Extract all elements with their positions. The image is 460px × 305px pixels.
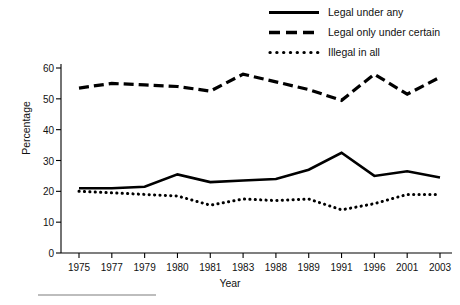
x-axis-tick-label: 1975 xyxy=(68,262,90,273)
y-axis-tick-label: 60 xyxy=(20,63,54,74)
x-axis-tick-label: 1991 xyxy=(330,262,352,273)
footer-divider xyxy=(38,294,156,296)
x-axis-tick-label: 1988 xyxy=(265,262,287,273)
x-axis-tick-label: 2003 xyxy=(429,262,451,273)
y-axis-tick-label: 40 xyxy=(20,124,54,135)
x-axis-tick-label: 1983 xyxy=(232,262,254,273)
y-axis-tick-label: 0 xyxy=(20,248,54,259)
y-axis-tick-label: 30 xyxy=(20,155,54,166)
x-axis-tick-label: 2001 xyxy=(396,262,418,273)
y-axis-tick-label: 50 xyxy=(20,93,54,104)
x-axis-tick-label: 1977 xyxy=(101,262,123,273)
x-axis-tick-label: 1996 xyxy=(363,262,385,273)
series-line-0 xyxy=(79,153,440,188)
y-axis-tick-label: 20 xyxy=(20,186,54,197)
line-chart: Legal under any Legal only under certain… xyxy=(0,0,460,305)
y-axis-tick-label: 10 xyxy=(20,217,54,228)
series-line-2 xyxy=(79,191,440,210)
plot-area xyxy=(0,0,460,305)
x-axis-tick-label: 1979 xyxy=(134,262,156,273)
x-axis-tick-label: 1981 xyxy=(199,262,221,273)
series-line-1 xyxy=(79,74,440,100)
x-axis-tick-label: 1980 xyxy=(166,262,188,273)
x-axis-tick-label: 1989 xyxy=(298,262,320,273)
